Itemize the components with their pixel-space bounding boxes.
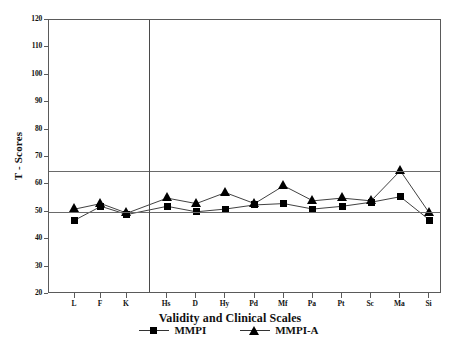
y-axis-tick-mark: [44, 293, 48, 294]
x-axis-tick-mark: [399, 293, 400, 298]
triangle-marker-icon: [240, 325, 270, 335]
y-axis-tick-label: 90: [0, 96, 42, 105]
series-lines: [49, 20, 442, 294]
y-axis-tick-label: 40: [0, 233, 42, 242]
plot-area: [48, 19, 441, 293]
data-point-mmpi-si: [426, 217, 433, 224]
x-axis-tick-label: K: [106, 299, 146, 308]
legend-label-mmpi: MMPI: [174, 324, 206, 336]
legend-label-mmpi-a: MMPI-A: [275, 324, 318, 336]
y-axis-tick-label: 30: [0, 261, 42, 270]
y-axis-tick-label: 80: [0, 124, 42, 133]
data-point-mmpi-a-pt: [337, 192, 347, 201]
x-axis-tick-mark: [100, 293, 101, 298]
y-axis-tick-label: 70: [0, 151, 42, 160]
reference-line-65: [49, 171, 440, 172]
data-point-mmpi-a-hs: [162, 192, 172, 201]
x-axis-tick-mark: [341, 293, 342, 298]
x-axis-tick-mark: [224, 293, 225, 298]
y-axis-tick-label: 100: [0, 69, 42, 78]
x-axis-tick-mark: [428, 293, 429, 298]
x-axis-tick-mark: [312, 293, 313, 298]
data-point-mmpi-l: [71, 217, 78, 224]
data-point-mmpi-a-sc: [366, 195, 376, 204]
y-axis-tick-label: 110: [0, 41, 42, 50]
data-point-mmpi-a-f: [95, 198, 105, 207]
square-marker-icon: [139, 325, 169, 335]
y-axis-tick-label: 50: [0, 206, 42, 215]
chart-figure: T - Scores 2030405060708090100110120 LFK…: [0, 0, 458, 343]
x-axis-tick-mark: [166, 293, 167, 298]
chart-legend: MMPI MMPI-A: [0, 324, 458, 336]
x-axis-tick-label: Si: [408, 299, 448, 308]
legend-item-mmpi-a: MMPI-A: [240, 324, 318, 336]
y-axis-tick-label: 120: [0, 14, 42, 23]
x-axis-tick-mark: [370, 293, 371, 298]
data-point-mmpi-a-hy: [220, 187, 230, 196]
reference-line-50: [49, 212, 440, 213]
data-point-mmpi-mf: [280, 200, 287, 207]
data-point-mmpi-a-pa: [307, 195, 317, 204]
x-axis-tick-mark: [74, 293, 75, 298]
data-point-mmpi-hs: [164, 203, 171, 210]
x-axis-tick-mark: [283, 293, 284, 298]
data-point-mmpi-a-l: [69, 203, 79, 212]
data-point-mmpi-a-ma: [395, 165, 405, 174]
data-point-mmpi-a-mf: [278, 180, 288, 189]
validity-clinical-separator: [149, 20, 150, 292]
x-axis-tick-mark: [126, 293, 127, 298]
x-axis-tick-mark: [195, 293, 196, 298]
legend-item-mmpi: MMPI: [139, 324, 206, 336]
x-axis-tick-mark: [254, 293, 255, 298]
data-point-mmpi-a-d: [191, 198, 201, 207]
y-axis-tick-group: 2030405060708090100110120: [0, 0, 48, 343]
data-point-mmpi-pt: [339, 203, 346, 210]
data-point-mmpi-a-pd: [249, 198, 259, 207]
y-axis-tick-label: 60: [0, 178, 42, 187]
y-axis-tick-label: 20: [0, 288, 42, 297]
data-point-mmpi-ma: [397, 193, 404, 200]
